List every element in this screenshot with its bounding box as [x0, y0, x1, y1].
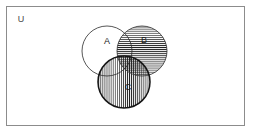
set-label-b: B [141, 35, 147, 45]
venn-diagram-figure: U A B C [0, 0, 255, 137]
set-label-a: A [104, 36, 110, 46]
universe-label: U [18, 14, 25, 24]
set-label-c: C [125, 82, 132, 92]
venn-diagram-canvas: U A B C [0, 0, 255, 137]
